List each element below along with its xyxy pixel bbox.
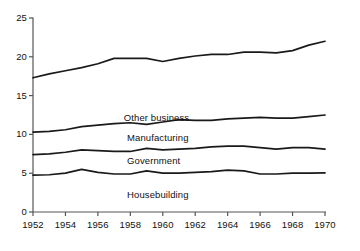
- y-axis-tick-label: 20: [5, 51, 27, 62]
- x-axis-tick-label: 1970: [308, 219, 342, 230]
- series-label-other-business: Other business: [124, 112, 189, 123]
- series-label-manufacturing: Manufacturing: [127, 132, 189, 143]
- x-axis-tick-label: 1964: [211, 219, 245, 230]
- series-line-other-business: [33, 41, 325, 77]
- x-axis-tick-label: 1960: [146, 219, 180, 230]
- x-axis-tick-label: 1962: [178, 219, 212, 230]
- series-line-housebuilding: [33, 169, 325, 175]
- x-axis-tick-label: 1968: [276, 219, 310, 230]
- series-line-government: [33, 146, 325, 155]
- y-axis-tick-label: 10: [5, 128, 27, 139]
- series-label-government: Government: [127, 155, 180, 166]
- y-axis-tick-label: 25: [5, 12, 27, 23]
- x-axis-tick-label: 1956: [81, 219, 115, 230]
- line-chart: 0510152025 19521954195619581960196219641…: [0, 0, 360, 251]
- y-axis-tick-label: 0: [5, 206, 27, 217]
- x-axis-tick-label: 1958: [113, 219, 147, 230]
- x-axis-tick-label: 1954: [48, 219, 82, 230]
- x-axis-tick-label: 1966: [243, 219, 277, 230]
- series-label-housebuilding: Housebuilding: [127, 189, 189, 200]
- y-axis-tick-label: 15: [5, 90, 27, 101]
- x-axis-tick-label: 1952: [16, 219, 50, 230]
- y-axis-tick-label: 5: [5, 167, 27, 178]
- chart-plot-area: [0, 0, 360, 251]
